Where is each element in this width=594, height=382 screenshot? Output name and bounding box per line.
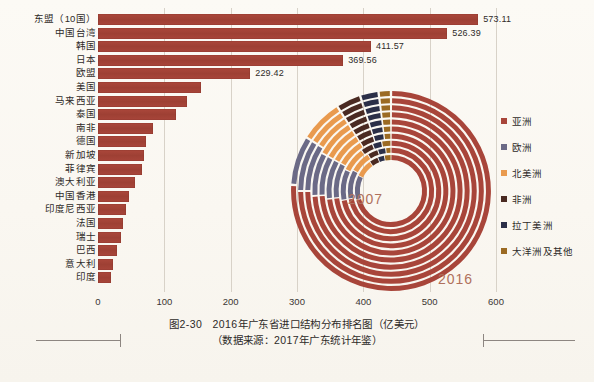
category-label-column: 东盟（10国）中国台湾韩国日本欧盟美国马来西亚泰国南非德国新加坡菲律宾澳大利亚中… <box>0 0 96 300</box>
donut-segment <box>362 139 373 144</box>
bar <box>98 272 111 283</box>
donut-segment <box>379 158 384 160</box>
legend-swatch-icon <box>501 196 507 202</box>
x-axis-tick: 400 <box>355 296 371 307</box>
legend-label: 北美洲 <box>512 166 543 180</box>
legend-item: 非洲 <box>501 186 593 212</box>
x-axis-tick: 600 <box>488 296 504 307</box>
donut-outer-year-label: 2016 <box>438 271 473 287</box>
donut-segment <box>362 94 378 97</box>
category-label: 南非 <box>76 122 96 134</box>
legend-item: 拉丁美洲 <box>501 212 593 238</box>
category-label: 新加坡 <box>65 149 96 161</box>
donut-segment <box>370 152 378 156</box>
donut-segment <box>343 171 347 199</box>
figure-caption: 图2-30 2016年广东省进口结构分布排名图（亿美元） （数据来源：2017年… <box>0 316 594 348</box>
figure-area: 东盟（10国）中国台湾韩国日本欧盟美国马来西亚泰国南非德国新加坡菲律宾澳大利亚中… <box>0 0 594 312</box>
bar <box>98 204 126 215</box>
x-axis-tick: 200 <box>223 296 239 307</box>
x-axis-tick: 500 <box>422 296 438 307</box>
x-axis-tick: 100 <box>156 296 172 307</box>
donut-segment <box>374 144 382 146</box>
donut-segment <box>358 132 371 138</box>
category-label: 韩国 <box>76 40 96 52</box>
category-label: 巴西 <box>76 244 96 256</box>
category-label: 欧盟 <box>76 67 96 79</box>
legend-swatch-icon <box>501 144 507 150</box>
legend-label: 欧洲 <box>512 140 532 154</box>
bar <box>98 68 250 79</box>
donut-segment <box>355 126 369 133</box>
bar-value-label: 526.39 <box>452 27 481 39</box>
caption-rule-right <box>483 340 575 341</box>
category-label: 法国 <box>76 217 96 229</box>
caption-title: 图2-30 2016年广东省进口结构分布排名图（亿美元） <box>0 316 594 332</box>
bar <box>98 96 187 107</box>
bar <box>98 109 176 120</box>
category-label: 东盟（10国） <box>34 13 96 25</box>
donut-segment <box>370 123 381 125</box>
legend-label: 大洋洲及其他 <box>512 244 573 258</box>
legend-label: 亚洲 <box>512 114 532 128</box>
caption-rule-right-tick <box>483 334 484 347</box>
legend-swatch-icon <box>501 170 507 176</box>
bar <box>98 136 146 147</box>
category-label: 泰国 <box>76 108 96 120</box>
donut-segment <box>382 108 390 109</box>
category-label: 德国 <box>76 135 96 147</box>
bar-value-label: 229.42 <box>255 67 284 79</box>
bar <box>98 259 113 270</box>
legend-label: 非洲 <box>512 192 532 206</box>
donut-rings <box>288 88 494 294</box>
donut-segment <box>366 109 379 112</box>
bar <box>98 55 343 66</box>
legend-item: 大洋洲及其他 <box>501 238 593 264</box>
bar <box>98 14 478 25</box>
legend-item: 欧洲 <box>501 134 593 160</box>
bar <box>98 123 153 134</box>
donut-segment <box>383 143 391 144</box>
bar-value-label: 369.56 <box>348 54 377 66</box>
donut-segment <box>363 147 372 152</box>
category-label: 美国 <box>76 81 96 93</box>
donut-inner-year-label: 2007 <box>348 191 383 207</box>
category-label: 日本 <box>76 54 96 66</box>
category-label: 意大利 <box>65 258 96 270</box>
bar <box>98 28 447 39</box>
legend-label: 拉丁美洲 <box>512 218 553 232</box>
legend-item: 亚洲 <box>501 108 593 134</box>
category-label: 澳大利亚 <box>55 176 96 188</box>
legend-item: 北美洲 <box>501 160 593 186</box>
x-axis: 0100200300400500600 <box>0 296 594 314</box>
donut-segment <box>361 164 371 176</box>
donut-segment <box>381 101 390 102</box>
caption-rule-left <box>36 340 120 341</box>
x-axis-tick: 0 <box>95 296 100 307</box>
bar <box>98 245 117 256</box>
legend-swatch-icon <box>501 222 507 228</box>
category-label: 马来西亚 <box>55 95 96 107</box>
bar <box>98 232 121 243</box>
caption-rule-left-tick <box>120 334 121 347</box>
legend-swatch-icon <box>501 118 507 124</box>
category-label: 中国台湾 <box>55 27 96 39</box>
bar <box>98 150 144 161</box>
category-label: 印度 <box>76 271 96 283</box>
bar <box>98 82 201 93</box>
bar <box>98 164 142 175</box>
legend-swatch-icon <box>501 248 507 254</box>
category-label: 印度尼西亚 <box>45 203 96 215</box>
donut-segment <box>379 151 386 152</box>
bar <box>98 218 123 229</box>
gridline <box>496 8 497 292</box>
bar <box>98 41 371 52</box>
donut-segment <box>368 116 380 119</box>
donut-chart: 2007 2016 <box>288 88 494 294</box>
bar <box>98 191 129 202</box>
category-label: 瑞士 <box>76 231 96 243</box>
donut-segment <box>385 157 390 158</box>
donut-segment <box>373 130 383 132</box>
bar-value-label: 411.57 <box>376 40 404 52</box>
category-label: 中国香港 <box>55 190 96 202</box>
donut-segment <box>364 102 378 105</box>
